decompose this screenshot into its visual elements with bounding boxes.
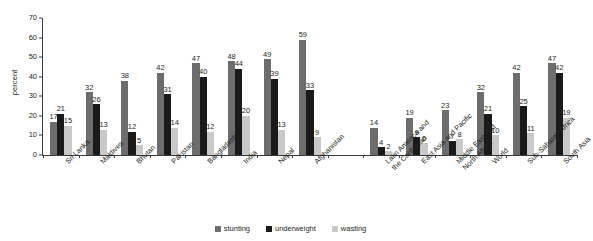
y-tick-label: 60 — [29, 34, 37, 42]
bar-value-label: 15 — [64, 117, 72, 125]
legend-label: underweight — [275, 225, 316, 233]
bar-wasting: 2 — [385, 18, 392, 155]
bar-rect — [128, 132, 135, 155]
bar-stunting: 32 — [86, 18, 93, 155]
bar-group: 484420 — [221, 18, 257, 155]
bar-stunting: 42 — [513, 18, 520, 155]
legend-swatch-icon — [332, 226, 338, 232]
y-tick-label: 70 — [29, 14, 37, 22]
bar-group: 59339 — [292, 18, 328, 155]
bar-underweight: 39 — [271, 18, 278, 155]
bar-group-bars: 484420 — [221, 18, 257, 155]
x-tick-mark — [43, 155, 44, 158]
bar-rect — [449, 141, 456, 155]
bar-underweight: 44 — [235, 18, 242, 155]
bar-rect — [271, 79, 278, 155]
legend-swatch-icon — [215, 226, 221, 232]
bar-wasting: 14 — [171, 18, 178, 155]
bar-underweight: 33 — [306, 18, 313, 155]
legend-swatch-icon — [266, 226, 272, 232]
bar-value-label: 14 — [171, 119, 179, 127]
bar-value-label: 2 — [386, 143, 390, 151]
y-axis-ticks: 010203040506070 — [18, 18, 42, 155]
bar-rect — [192, 63, 199, 155]
bar-wasting: 9 — [314, 18, 321, 155]
bar-rect — [513, 73, 520, 155]
bar-rect — [242, 116, 249, 155]
legend-label: wasting — [341, 225, 366, 233]
bar-wasting: 13 — [100, 18, 107, 155]
bar-group-bars: 493913 — [257, 18, 293, 155]
bar-stunting: 38 — [121, 18, 128, 155]
bar-underweight: 12 — [128, 18, 135, 155]
bar-wasting: 12 — [207, 18, 214, 155]
bar-value-label: 12 — [206, 123, 214, 131]
bar-underweight: 25 — [520, 18, 527, 155]
y-tick-label: 50 — [29, 53, 37, 61]
bar-group: 322613 — [79, 18, 115, 155]
bar-underweight: 26 — [93, 18, 100, 155]
y-tick-label: 30 — [29, 93, 37, 101]
bar-rect — [50, 122, 57, 155]
bar-value-label: 13 — [99, 121, 107, 129]
bar-group-bars: 172115 — [43, 18, 79, 155]
bar-group — [328, 18, 364, 155]
bar-rect — [299, 40, 306, 155]
bar-group: 172115 — [43, 18, 79, 155]
legend-label: stunting — [224, 225, 250, 233]
bar-group-bars: 422511 — [506, 18, 542, 155]
bar-value-label: 5 — [137, 137, 141, 145]
bar-rect — [306, 90, 313, 155]
bar-group-bars: 59339 — [292, 18, 328, 155]
bar-wasting: 15 — [64, 18, 71, 155]
bar-underweight: 4 — [378, 18, 385, 155]
y-tick-label: 20 — [29, 112, 37, 120]
legend-item-wasting[interactable]: wasting — [332, 225, 366, 233]
bar-underweight: 21 — [57, 18, 64, 155]
bar-value-label: 20 — [242, 107, 250, 115]
bar-group-bars: 423114 — [150, 18, 186, 155]
bar-wasting: 13 — [278, 18, 285, 155]
bar-group-bars: 474012 — [185, 18, 221, 155]
bar-group: 1442 — [363, 18, 399, 155]
bar-wasting: 11 — [527, 18, 534, 155]
bar-underweight: 40 — [200, 18, 207, 155]
legend-item-stunting[interactable]: stunting — [215, 225, 250, 233]
bar-group-bars — [328, 18, 364, 155]
bar-stunting: 49 — [264, 18, 271, 155]
bar-underweight: 31 — [164, 18, 171, 155]
bar-value-label: 9 — [315, 129, 319, 137]
bar-rect — [93, 104, 100, 155]
y-tick-label: 0 — [33, 151, 37, 159]
bar-value-label: 13 — [277, 121, 285, 129]
bar-group: 493913 — [257, 18, 293, 155]
bar-wasting: 5 — [136, 18, 143, 155]
y-tick-label: 10 — [29, 132, 37, 140]
bar-group: 423114 — [150, 18, 186, 155]
bar-rect — [200, 77, 207, 155]
bar-wasting: 20 — [242, 18, 249, 155]
bar-stunting: 14 — [370, 18, 377, 155]
bar-wasting: 19 — [563, 18, 570, 155]
bar-group: 474012 — [185, 18, 221, 155]
bar-group-bars: 38125 — [114, 18, 150, 155]
bar-group: 38125 — [114, 18, 150, 155]
bar-underweight — [342, 18, 349, 155]
bar-stunting: 17 — [50, 18, 57, 155]
bar-stunting: 47 — [192, 18, 199, 155]
bar-value-label: 11 — [527, 125, 535, 133]
bar-group-bars: 322613 — [79, 18, 115, 155]
legend-item-underweight[interactable]: underweight — [266, 225, 316, 233]
bar-wasting — [349, 18, 356, 155]
y-tick-label: 40 — [29, 73, 37, 81]
bar-rect — [370, 128, 377, 155]
x-tick-mark — [363, 155, 364, 158]
bar-group-bars: 1442 — [363, 18, 399, 155]
bar-group: 422511 — [506, 18, 542, 155]
bar-value-label: 4 — [379, 139, 383, 147]
chart-legend: stuntingunderweightwasting — [0, 225, 581, 233]
bar-rect — [378, 147, 385, 155]
